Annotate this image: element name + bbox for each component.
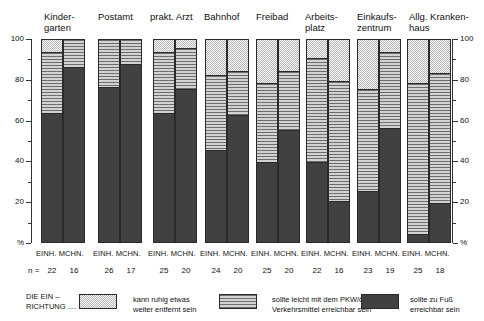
n-label-prefix: n =	[28, 266, 39, 275]
segment-dark-checker	[380, 128, 400, 243]
segment-horizontal-lines	[307, 58, 327, 162]
segment-light-checker	[408, 40, 428, 83]
y-tick-20	[26, 202, 31, 203]
segment-horizontal-lines	[99, 40, 119, 87]
segment-horizontal-lines	[358, 89, 378, 191]
n-value-einh: 26	[98, 266, 120, 275]
segment-light-checker	[206, 40, 226, 75]
segment-dark-checker	[430, 203, 450, 243]
y-tick-80	[453, 80, 458, 81]
col-head-freibad: EINH. MCHN.	[251, 249, 299, 258]
y-tick-10	[28, 223, 31, 224]
y-tick-10	[453, 223, 456, 224]
y-tick-20	[453, 202, 458, 203]
y-tick-80	[26, 80, 31, 81]
segment-horizontal-lines	[206, 75, 226, 150]
group-title-prakt-arzt: prakt. Arzt	[150, 12, 210, 23]
segment-horizontal-lines	[154, 52, 174, 113]
bar-einh	[153, 39, 175, 243]
segment-horizontal-lines	[176, 48, 196, 89]
y-tick-label-0: %	[2, 238, 24, 247]
n-value-mchn: 20	[175, 266, 197, 275]
segment-dark-checker	[307, 162, 327, 243]
col-head-einh: EINH.	[301, 249, 322, 258]
segment-light-checker	[228, 40, 248, 71]
segment-dark-checker	[176, 89, 196, 243]
y-tick-60	[453, 121, 458, 122]
bar-einh	[41, 39, 63, 243]
bar-mchn	[278, 39, 300, 243]
col-head-mchn: MCHN.	[59, 249, 84, 258]
segment-light-checker	[279, 40, 299, 71]
bar-mchn	[175, 39, 197, 243]
segment-horizontal-lines	[279, 71, 299, 130]
n-value-mchn: 20	[227, 266, 249, 275]
y-tick-40	[453, 161, 458, 162]
group-title-freibad: Freibad	[256, 12, 312, 23]
n-value-einh: 25	[256, 266, 278, 275]
col-head-einh: EINH.	[402, 249, 423, 258]
segment-dark-checker	[99, 87, 119, 243]
y-tick-label-80: 80	[460, 75, 484, 84]
bar-mchn	[63, 39, 85, 243]
bar-mchn	[328, 39, 350, 243]
col-head-allg-krankenhaus: EINH. MCHN.	[402, 249, 450, 258]
col-head-mchn: MCHN.	[223, 249, 248, 258]
segment-dark-checker	[206, 150, 226, 243]
bar-mchn	[227, 39, 249, 243]
segment-light-checker	[329, 40, 349, 81]
segment-dark-checker	[329, 201, 349, 243]
col-head-postamt: EINH. MCHN.	[93, 249, 141, 258]
y-tick-50	[453, 141, 456, 142]
col-head-einh: EINH.	[36, 249, 57, 258]
y-tick-90	[453, 59, 456, 60]
y-tick-label-0: %	[460, 238, 484, 247]
y-tick-label-60: 60	[2, 116, 24, 125]
legend-swatch-zu-fuss	[361, 294, 399, 309]
legend-swatch-kann-ruhig-weiter	[79, 294, 117, 309]
y-tick-100	[26, 39, 31, 40]
segment-dark-checker	[358, 191, 378, 243]
col-head-mchn: MCHN.	[171, 249, 196, 258]
chart-legend: DIE EIN – RICHTUNG .... kann ruhig etwas…	[0, 292, 484, 321]
col-head-mchn: MCHN.	[274, 249, 299, 258]
y-tick-60	[26, 121, 31, 122]
segment-horizontal-lines	[257, 83, 277, 163]
segment-light-checker	[358, 40, 378, 89]
legend-swatch-pkw-oeffentl	[219, 294, 257, 309]
legend-label-zu-fuss: sollte zu Fuß erreichbar sein	[410, 295, 484, 314]
col-head-einkaufszentrum: EINH. MCHN.	[352, 249, 400, 258]
y-tick-label-60: 60	[460, 116, 484, 125]
col-head-einh: EINH.	[148, 249, 169, 258]
plot-area: Kinder- garten Postamt prakt. Arzt Bahnh…	[0, 0, 484, 321]
y-tick-label-100: 100	[460, 34, 484, 43]
bar-einh	[306, 39, 328, 243]
n-value-mchn: 19	[379, 266, 401, 275]
segment-horizontal-lines	[64, 40, 84, 67]
n-value-mchn: 16	[63, 266, 85, 275]
segment-dark-checker	[257, 162, 277, 243]
col-head-kindergarten: EINH. MCHN.	[36, 249, 84, 258]
segment-horizontal-lines	[380, 52, 400, 127]
n-value-einh: 25	[407, 266, 429, 275]
segment-horizontal-lines	[329, 81, 349, 201]
y-tick-30	[453, 182, 456, 183]
col-head-einh: EINH.	[352, 249, 373, 258]
segment-dark-checker	[279, 130, 299, 243]
col-head-mchn: MCHN.	[375, 249, 400, 258]
y-tick-50	[28, 141, 31, 142]
chart-figure: Kinder- garten Postamt prakt. Arzt Bahnh…	[0, 0, 484, 321]
legend-caption: DIE EIN – RICHTUNG ....	[26, 292, 76, 311]
n-value-einh: 23	[357, 266, 379, 275]
segment-horizontal-lines	[228, 71, 248, 116]
segment-dark-checker	[154, 113, 174, 243]
y-tick-0	[26, 243, 31, 244]
col-head-einh: EINH.	[251, 249, 272, 258]
n-value-einh: 22	[41, 266, 63, 275]
segment-light-checker	[430, 40, 450, 73]
group-title-bahnhof: Bahnhof	[204, 12, 260, 23]
col-head-mchn: MCHN.	[425, 249, 450, 258]
bar-einh	[357, 39, 379, 243]
segment-horizontal-lines	[121, 40, 141, 64]
group-title-arbeitsplatz: Arbeits- platz	[305, 12, 361, 33]
